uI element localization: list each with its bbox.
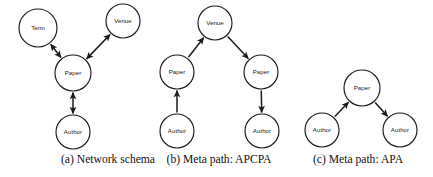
node-label-b-author-r: Author (253, 127, 271, 134)
node-label-b-paper-r: Paper (253, 68, 270, 75)
edge-c-author-l-paper (335, 102, 349, 116)
node-c-paper: Paper (344, 70, 380, 106)
node-label-a-author: Author (64, 128, 82, 135)
panel-caption-a: (a) Network schema (61, 153, 155, 166)
node-a-author: Author (56, 115, 90, 149)
node-c-author-r: Author (383, 113, 417, 147)
node-label-c-paper: Paper (354, 84, 371, 91)
node-label-b-paper-l: Paper (169, 68, 186, 75)
node-a-venue: Venue (106, 4, 140, 38)
captions-layer: (a) Network schema(b) Meta path: APCPA(c… (61, 153, 404, 166)
node-b-venue: Venue (198, 6, 232, 40)
edge-a-venue-paper (87, 34, 111, 58)
node-b-paper-r: Paper (244, 55, 278, 89)
panel-caption-c: (c) Meta path: APA (313, 153, 404, 166)
network-schema-figure: TermVenuePaperAuthorVenuePaperPaperAutho… (0, 0, 433, 177)
node-label-a-term: Term (31, 24, 45, 31)
edge-b-paper-l-venue (188, 38, 203, 58)
node-label-a-venue: Venue (114, 17, 132, 24)
panel-caption-b: (b) Meta path: APCPA (167, 153, 273, 166)
edge-a-term-paper (51, 44, 61, 57)
node-label-c-author-l: Author (313, 126, 331, 133)
edges-layer (51, 34, 388, 116)
node-label-b-venue: Venue (206, 19, 224, 26)
node-b-author-l: Author (160, 114, 194, 148)
edge-c-paper-author-r (375, 103, 387, 117)
node-label-b-author-l: Author (168, 127, 186, 134)
nodes-layer: TermVenuePaperAuthorVenuePaperPaperAutho… (19, 4, 417, 149)
node-a-paper: Paper (55, 55, 91, 91)
edge-b-venue-paper-r (228, 37, 249, 59)
node-b-paper-l: Paper (160, 55, 194, 89)
node-c-author-l: Author (305, 113, 339, 147)
node-label-c-author-r: Author (391, 126, 409, 133)
node-b-author-r: Author (245, 114, 279, 148)
node-label-a-paper: Paper (65, 69, 82, 76)
node-a-term: Term (19, 9, 57, 47)
